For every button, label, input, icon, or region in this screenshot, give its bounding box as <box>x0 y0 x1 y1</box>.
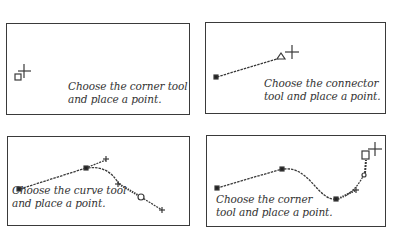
crosshair-icon <box>368 142 382 156</box>
connector-segment <box>214 58 280 79</box>
corner-point-icon <box>362 151 369 159</box>
handle-icon <box>103 156 165 213</box>
corner-point-icon <box>15 74 21 80</box>
curve-path <box>17 160 162 210</box>
path-drawings <box>0 0 398 231</box>
completed-path <box>215 160 366 201</box>
crosshair-icon <box>285 45 299 59</box>
connector-point-icon <box>277 53 285 59</box>
curve-point-icon <box>138 194 144 200</box>
